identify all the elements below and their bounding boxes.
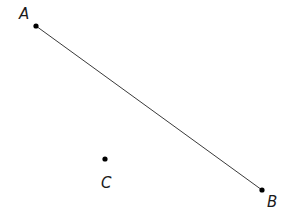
- geometry-diagram: A C B: [0, 0, 294, 221]
- point-b: [259, 187, 264, 192]
- point-a: [33, 23, 38, 28]
- point-c: [102, 156, 107, 161]
- label-a: A: [18, 5, 29, 23]
- label-c: C: [101, 174, 112, 192]
- segment-ab: [36, 26, 262, 190]
- label-b: B: [267, 193, 277, 211]
